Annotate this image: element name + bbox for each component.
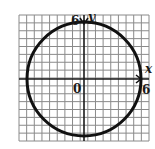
origin-label: 0: [73, 82, 81, 96]
x-axis-label: x: [144, 62, 153, 76]
circle-graph-figure: 6 y x 6 0: [0, 0, 155, 149]
x-tick-label-6: 6: [142, 83, 150, 97]
graph-svg: 6 y x 6 0: [0, 0, 155, 149]
y-tick-label-6: 6: [71, 14, 79, 28]
y-axis-label: y: [87, 10, 96, 24]
